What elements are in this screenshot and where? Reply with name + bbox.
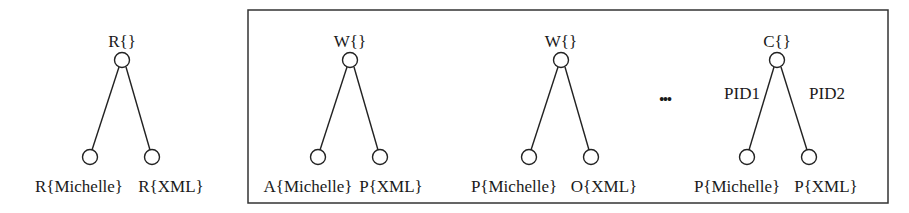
- left-child-node: [311, 150, 326, 165]
- tree-c: C{} PID1 PID2 P{Michelle} P{XML}: [694, 32, 858, 196]
- root-label: C{}: [763, 32, 791, 51]
- root-label: R{}: [108, 32, 136, 51]
- tree-diagram: R{} R{Michelle} R{XML} W{} A{Michelle} P…: [0, 0, 909, 213]
- right-child-node: [802, 150, 817, 165]
- left-child-node: [740, 150, 755, 165]
- tree-w-2: W{} P{Michelle} O{XML}: [471, 32, 637, 196]
- right-child-node: [145, 150, 160, 165]
- root-node: [343, 53, 358, 68]
- root-label: W{}: [334, 32, 366, 51]
- left-child-node: [83, 150, 98, 165]
- right-child-label: P{XML}: [794, 177, 858, 196]
- right-child-label: O{XML}: [571, 177, 637, 196]
- right-child-node: [584, 150, 599, 165]
- left-child-label: A{Michelle}: [263, 177, 352, 196]
- root-node: [554, 53, 569, 68]
- root-node: [115, 53, 130, 68]
- tree-r: R{} R{Michelle} R{XML}: [35, 32, 204, 196]
- root-label: W{}: [545, 32, 577, 51]
- left-edge-label: PID1: [724, 84, 760, 103]
- right-child-label: P{XML}: [359, 177, 423, 196]
- root-node: [770, 53, 785, 68]
- ellipsis: •••: [659, 92, 672, 107]
- tree-w-1: W{} A{Michelle} P{XML}: [263, 32, 422, 196]
- right-child-node: [373, 150, 388, 165]
- right-edge-label: PID2: [809, 84, 845, 103]
- right-child-label: R{XML}: [138, 177, 203, 196]
- left-child-label: R{Michelle}: [35, 177, 123, 196]
- left-child-node: [522, 150, 537, 165]
- left-child-label: P{Michelle}: [694, 177, 780, 196]
- left-child-label: P{Michelle}: [471, 177, 557, 196]
